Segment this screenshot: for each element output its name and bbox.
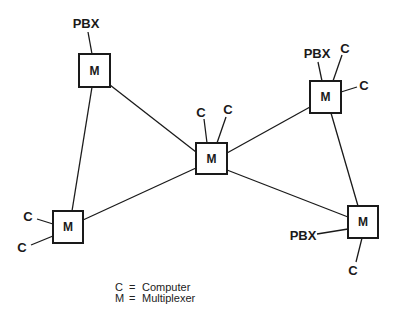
link-left-center xyxy=(83,168,196,220)
computer-label: C xyxy=(196,105,206,120)
node-label: M xyxy=(90,64,100,78)
pbx-label: PBX xyxy=(304,46,331,61)
multiplexer-top-left: M xyxy=(79,54,110,87)
link-center-right xyxy=(227,170,348,217)
stub-c-right xyxy=(356,238,362,262)
multiplexer-top-right: M xyxy=(310,81,341,113)
node-label: M xyxy=(207,152,217,166)
legend-meaning: Multiplexer xyxy=(142,292,196,304)
node-label: M xyxy=(321,90,331,104)
network-diagram: M M M M M PBX C C PBX C C C C PBX C C = … xyxy=(0,0,398,312)
stub-pbx-right xyxy=(317,229,348,234)
computer-label: C xyxy=(17,240,27,255)
stub-c2-center xyxy=(217,117,226,143)
link-topright-right xyxy=(331,113,358,206)
stub-c1-center xyxy=(204,119,207,143)
multiplexer-center: M xyxy=(196,143,227,174)
stub-pbx-topleft xyxy=(88,32,92,54)
link-center-topright xyxy=(227,107,310,153)
stub-c1-left xyxy=(37,219,53,224)
multiplexer-right: M xyxy=(348,206,378,238)
node-label: M xyxy=(358,215,368,229)
link-topleft-left xyxy=(72,87,92,211)
computer-label: C xyxy=(340,41,350,56)
node-label: M xyxy=(63,220,73,234)
computer-label: C xyxy=(348,263,358,278)
pbx-label: PBX xyxy=(290,228,317,243)
legend-item-multiplexer: M = Multiplexer xyxy=(115,292,196,304)
multiplexer-left: M xyxy=(53,211,83,243)
legend-equals: = xyxy=(129,292,135,304)
legend: C = Computer M = Multiplexer xyxy=(115,281,196,304)
stub-c1-topright xyxy=(333,55,342,81)
link-topleft-center xyxy=(110,85,196,152)
pbx-label: PBX xyxy=(73,16,100,31)
stub-c2-left xyxy=(31,236,53,245)
stub-pbx-topright xyxy=(318,62,322,81)
computer-label: C xyxy=(359,78,369,93)
stub-c2-topright xyxy=(341,87,357,92)
legend-symbol: M xyxy=(115,292,124,304)
computer-label: C xyxy=(23,209,33,224)
computer-label: C xyxy=(223,102,233,117)
